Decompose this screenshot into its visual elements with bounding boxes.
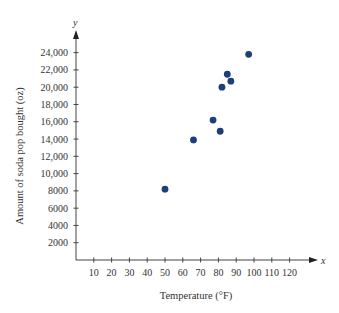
- y-tick-label: 2000: [48, 237, 68, 248]
- data-point: [227, 78, 234, 85]
- y-tick-label: 24,000: [41, 47, 69, 58]
- y-axis-variable: y: [72, 17, 78, 28]
- x-tick-label: 120: [282, 267, 297, 278]
- y-tick-label: 14,000: [41, 134, 69, 145]
- x-axis-title: Temperature (°F): [160, 290, 233, 302]
- data-point: [217, 128, 224, 135]
- x-tick-label: 50: [160, 267, 170, 278]
- x-tick-label: 90: [231, 267, 241, 278]
- x-tick-label: 100: [247, 267, 262, 278]
- y-tick-label: 4000: [48, 220, 68, 231]
- x-tick-label: 40: [142, 267, 152, 278]
- y-tick-label: 12,000: [41, 151, 69, 162]
- y-axis-title: Amount of soda pop bought (oz): [14, 87, 26, 225]
- y-tick-label: 16,000: [41, 116, 69, 127]
- y-axis-arrow-icon: [73, 30, 79, 39]
- x-tick-label: 60: [178, 267, 188, 278]
- chart-canvas: xy10203040506070809010011012020004000600…: [0, 0, 339, 313]
- y-tick-label: 18,000: [41, 99, 69, 110]
- x-tick-label: 30: [124, 267, 134, 278]
- y-tick-label: 20,000: [41, 82, 69, 93]
- x-tick-label: 20: [107, 267, 117, 278]
- data-point: [219, 84, 226, 91]
- y-tick-label: 22,000: [41, 64, 69, 75]
- y-tick-label: 8000: [48, 185, 68, 196]
- x-tick-label: 70: [196, 267, 206, 278]
- x-axis-variable: x: [320, 255, 326, 266]
- x-tick-label: 80: [213, 267, 223, 278]
- y-tick-label: 6000: [48, 203, 68, 214]
- data-point: [190, 137, 197, 144]
- scatter-chart: xy10203040506070809010011012020004000600…: [0, 0, 339, 313]
- x-tick-label: 110: [264, 267, 279, 278]
- data-point: [224, 71, 231, 78]
- data-point: [162, 186, 169, 193]
- x-axis-arrow-icon: [309, 257, 318, 263]
- data-point: [245, 51, 252, 58]
- x-tick-label: 10: [89, 267, 99, 278]
- data-point: [210, 117, 217, 124]
- y-tick-label: 10,000: [41, 168, 69, 179]
